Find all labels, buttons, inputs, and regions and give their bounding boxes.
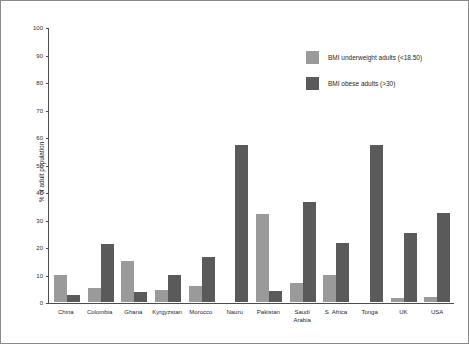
bar-group [84, 29, 118, 302]
bar-obese [303, 202, 316, 302]
legend-item-underweight: BMI underweight adults (<18.50) [306, 51, 422, 64]
bar-obese [336, 243, 349, 302]
chart-figure: % of adult population 010203040506070809… [0, 0, 469, 344]
bar-obese [67, 295, 80, 302]
x-axis-tick-label: Tonga [353, 307, 387, 329]
bar-obese [202, 257, 215, 302]
bar-underweight [121, 261, 134, 302]
bar-group [117, 29, 151, 302]
x-axis-tick-label: Nauru [218, 307, 252, 329]
x-axis-tick-label: USA [420, 307, 454, 329]
x-axis-tick-label: Saudi Arabia [285, 307, 319, 329]
x-axis-tick-label: Ghana [117, 307, 151, 329]
bar-underweight [54, 275, 67, 302]
x-axis-tick-label: S. Africa [319, 307, 353, 329]
x-axis-tick-label: China [49, 307, 83, 329]
bar-obese [370, 145, 383, 302]
x-axis-tick-label: Colombia [83, 307, 117, 329]
legend-swatch-underweight-icon [306, 51, 319, 64]
bar-obese [134, 292, 147, 302]
bar-group [151, 29, 185, 302]
bar-obese [404, 233, 417, 302]
bar-obese [168, 275, 181, 303]
bar-group [420, 29, 454, 302]
bar-obese [269, 291, 282, 302]
bar-underweight [391, 298, 404, 302]
legend-label-obese: BMI obese adults (>30) [328, 80, 395, 87]
bar-underweight [290, 283, 303, 302]
bar-underweight [323, 275, 336, 303]
x-axis-tick-label: Kyrgyzstan [150, 307, 184, 329]
bar-underweight [189, 286, 202, 303]
x-axis-labels: ChinaColombiaGhanaKyrgyzstanMoroccoNauru… [49, 307, 454, 329]
bar-underweight [88, 288, 101, 302]
bar-underweight [424, 297, 437, 303]
bar-underweight [256, 214, 269, 302]
bar-group [50, 29, 84, 302]
bar-group [218, 29, 252, 302]
legend-label-underweight: BMI underweight adults (<18.50) [328, 54, 422, 61]
legend-item-obese: BMI obese adults (>30) [306, 77, 422, 90]
bar-group [252, 29, 286, 302]
x-axis-tick-label: Pakistan [252, 307, 286, 329]
chart-legend: BMI underweight adults (<18.50) BMI obes… [306, 51, 422, 90]
bar-obese [235, 145, 248, 302]
bar-group [185, 29, 219, 302]
bar-obese [437, 213, 450, 302]
legend-swatch-obese-icon [306, 77, 319, 90]
x-axis-tick-label: Morocco [184, 307, 218, 329]
x-axis-tick-label: UK [387, 307, 421, 329]
bar-underweight [155, 290, 168, 302]
bar-obese [101, 244, 114, 302]
